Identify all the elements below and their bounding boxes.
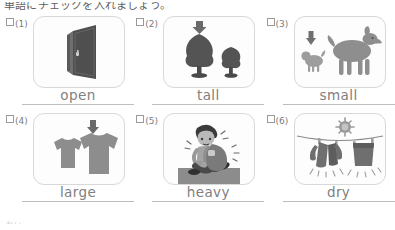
question-grid: (1) open (2)	[0, 14, 391, 208]
t-shirts-icon	[34, 114, 124, 184]
question-number: (5)	[145, 116, 158, 126]
empty-checkbox-icon[interactable]	[267, 115, 275, 123]
trees-icon	[164, 17, 254, 87]
question-label-6[interactable]: (6)	[267, 115, 289, 126]
picture-card-5	[163, 113, 255, 185]
small-dog-icon	[301, 50, 325, 72]
sun-icon	[336, 118, 354, 136]
word-text: dry	[283, 185, 395, 200]
picture-card-6	[294, 113, 386, 185]
question-number: (4)	[15, 116, 28, 126]
question-item: (2) tall	[130, 14, 260, 111]
question-label-2[interactable]: (2)	[136, 18, 158, 29]
picture-card-2	[163, 16, 255, 88]
word-answer-6: dry	[283, 185, 395, 202]
word-answer-2: tall	[152, 88, 264, 105]
question-item: (5)	[130, 111, 260, 208]
answer-rule	[283, 104, 395, 105]
picture-card-4	[33, 113, 125, 185]
word-text: heavy	[152, 185, 264, 200]
empty-checkbox-icon[interactable]	[267, 18, 275, 26]
down-arrow-icon	[193, 21, 207, 34]
empty-checkbox-icon[interactable]	[6, 115, 14, 123]
word-text: tall	[152, 88, 264, 103]
question-number: (1)	[15, 19, 28, 29]
shirt-on-line	[309, 142, 341, 168]
large-dog-icon	[327, 26, 381, 75]
clothesline-icon	[295, 114, 385, 184]
question-item: (6)	[261, 111, 391, 208]
footer-mark: れい	[6, 219, 22, 230]
picture-card-1	[33, 16, 125, 88]
empty-checkbox-icon[interactable]	[136, 115, 144, 123]
question-number: (3)	[276, 19, 289, 29]
empty-checkbox-icon[interactable]	[6, 18, 14, 26]
door-icon	[34, 17, 124, 87]
empty-checkbox-icon[interactable]	[136, 18, 144, 26]
small-t-shirt-icon	[54, 138, 82, 168]
word-answer-5: heavy	[152, 185, 264, 202]
word-answer-3: small	[283, 88, 395, 105]
heavy-bag-icon	[164, 114, 254, 184]
question-number: (2)	[145, 19, 158, 29]
towel-on-line	[353, 143, 374, 166]
word-text: large	[22, 185, 134, 200]
picture-card-3	[294, 16, 386, 88]
answer-rule	[22, 201, 134, 202]
question-label-5[interactable]: (5)	[136, 115, 158, 126]
word-answer-1: open	[22, 88, 134, 105]
answer-rule	[22, 104, 134, 105]
down-arrow-icon	[87, 120, 99, 134]
word-text: open	[22, 88, 134, 103]
answer-rule	[152, 201, 264, 202]
question-item: (4) large	[0, 111, 130, 208]
worksheet-heading: 単語にチェックを入れましょう。	[4, 0, 171, 12]
answer-rule	[152, 104, 264, 105]
question-number: (6)	[276, 116, 289, 126]
large-t-shirt-icon	[80, 133, 118, 174]
dogs-icon	[295, 17, 385, 87]
word-answer-4: large	[22, 185, 134, 202]
answer-rule	[283, 201, 395, 202]
word-text: small	[283, 88, 395, 103]
question-label-4[interactable]: (4)	[6, 115, 28, 126]
drying-lines	[310, 168, 381, 177]
question-item: (1) open	[0, 14, 130, 111]
question-label-3[interactable]: (3)	[267, 18, 289, 29]
down-arrow-icon	[306, 31, 316, 45]
question-label-1[interactable]: (1)	[6, 18, 28, 29]
question-item: (3)	[261, 14, 391, 111]
